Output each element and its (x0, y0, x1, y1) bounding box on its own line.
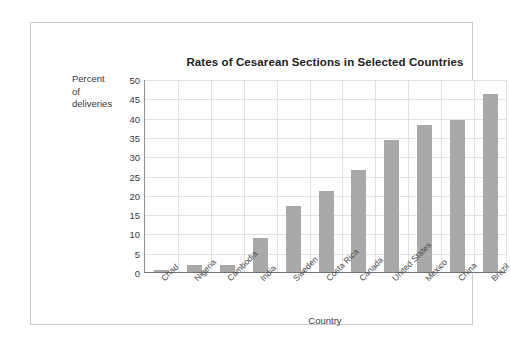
gridline-vertical (506, 80, 507, 272)
bar-costa-rica (319, 191, 334, 272)
y-tick-label: 35 (129, 132, 140, 143)
bar-united-states (384, 140, 399, 272)
y-tick-label: 5 (135, 248, 140, 259)
y-axis-title: Percent of deliveries (72, 73, 138, 111)
y-axis-title-line-2: of (72, 86, 138, 99)
plot-wrap: 05101520253035404550 ChadNigeriaCambodia… (144, 80, 506, 273)
y-tick-label: 20 (129, 190, 140, 201)
y-tick-label: 30 (129, 152, 140, 163)
y-axis-title-line-1: Percent (72, 73, 138, 86)
chart-title: Rates of Cesarean Sections in Selected C… (144, 56, 506, 68)
y-tick-label: 45 (129, 94, 140, 105)
y-tick-label: 10 (129, 229, 140, 240)
y-tick-label: 50 (129, 75, 140, 86)
bar-sweden (286, 206, 301, 272)
plot-area: 05101520253035404550 ChadNigeriaCambodia… (144, 80, 506, 273)
y-tick-label: 40 (129, 113, 140, 124)
y-tick-label: 25 (129, 171, 140, 182)
x-axis-title: Country (144, 315, 506, 326)
bar-china (450, 120, 465, 272)
y-tick-label: 15 (129, 210, 140, 221)
figure-frame: Rates of Cesarean Sections in Selected C… (30, 22, 473, 325)
y-tick-label: 0 (135, 268, 140, 279)
bar-brazil (483, 94, 498, 272)
y-axis-title-line-3: deliveries (72, 98, 138, 111)
bars-layer (145, 80, 506, 272)
